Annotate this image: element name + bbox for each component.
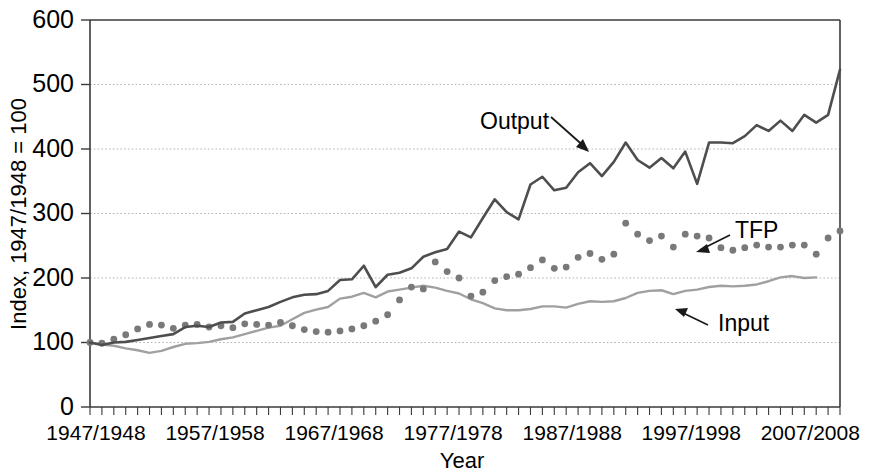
x-tick-label: 1987/1988	[523, 421, 622, 444]
x-tick-label: 1957/1958	[165, 421, 264, 444]
y-tick-label: 300	[32, 198, 74, 226]
series-marker-tfp	[313, 328, 320, 335]
series-marker-tfp	[229, 324, 236, 331]
y-tick-label: 100	[32, 327, 74, 355]
series-marker-tfp	[372, 318, 379, 325]
series-marker-tfp	[337, 327, 344, 334]
series-marker-tfp	[491, 277, 498, 284]
series-marker-tfp	[729, 247, 736, 254]
series-marker-tfp	[694, 233, 701, 240]
axis-frame	[90, 20, 840, 407]
y-tick-label: 400	[32, 134, 74, 162]
annotation-arrowhead-input	[675, 308, 688, 317]
annotation-label-tfp: TFP	[735, 217, 778, 243]
series-marker-tfp	[479, 289, 486, 296]
series-marker-tfp	[801, 242, 808, 249]
chart-canvas: 0100200300400500600 1947/19481957/195819…	[0, 0, 879, 475]
series-marker-tfp	[408, 284, 415, 291]
series-marker-tfp	[265, 322, 272, 329]
x-tick-label: 1947/1948	[46, 421, 145, 444]
x-axis-ticks	[90, 407, 840, 415]
series-marker-tfp	[277, 319, 284, 326]
series-marker-tfp	[384, 311, 391, 318]
series-marker-tfp	[622, 220, 629, 227]
series-marker-tfp	[253, 321, 260, 328]
chart-container: 0100200300400500600 1947/19481957/195819…	[0, 0, 879, 475]
series-marker-tfp	[515, 271, 522, 278]
series-line-input	[90, 276, 816, 353]
series-marker-tfp	[599, 256, 606, 263]
series-marker-tfp	[527, 264, 534, 271]
series-marker-tfp	[825, 235, 832, 242]
series-line-output	[90, 70, 840, 345]
series-marker-tfp	[718, 244, 725, 251]
y-tick-label: 600	[32, 5, 74, 33]
series-marker-tfp	[789, 242, 796, 249]
series-marker-tfp	[170, 325, 177, 332]
series-marker-tfp	[301, 326, 308, 333]
series-marker-tfp	[670, 244, 677, 251]
series-marker-tfp	[813, 251, 820, 258]
y-axis-ticks: 0100200300400500600	[32, 5, 90, 420]
series-marker-tfp	[658, 233, 665, 240]
series-marker-tfp	[706, 235, 713, 242]
series-marker-tfp	[349, 326, 356, 333]
annotation-label-input: Input	[718, 310, 770, 336]
series-marker-tfp	[563, 264, 570, 271]
series-marker-tfp	[539, 257, 546, 264]
series-marker-tfp	[777, 244, 784, 251]
annotation-input: Input	[675, 308, 770, 336]
series-marker-tfp	[146, 321, 153, 328]
y-tick-label: 500	[32, 69, 74, 97]
annotation-output: Output	[480, 108, 589, 152]
series-marker-tfp	[468, 293, 475, 300]
series-marker-tfp	[134, 326, 141, 333]
x-tick-label: 2007/2008	[761, 421, 860, 444]
series-marker-tfp	[241, 320, 248, 327]
series-marker-tfp	[634, 231, 641, 238]
series-marker-tfp	[360, 322, 367, 329]
series-marker-tfp	[444, 268, 451, 275]
gridlines	[90, 85, 840, 343]
series-marker-tfp	[646, 237, 653, 244]
series-marker-tfp	[420, 286, 427, 293]
y-tick-label: 0	[60, 392, 74, 420]
series-marker-tfp	[741, 244, 748, 251]
x-tick-label: 1997/1998	[642, 421, 741, 444]
series-marker-tfp	[122, 331, 129, 338]
series-marker-tfp	[837, 228, 844, 235]
series-marker-tfp	[456, 275, 463, 282]
series-marker-tfp	[289, 322, 296, 329]
series-marker-tfp	[325, 329, 332, 336]
series-marker-tfp	[551, 265, 558, 272]
series-marker-tfp	[503, 273, 510, 280]
series-marker-tfp	[610, 251, 617, 258]
y-tick-label: 200	[32, 263, 74, 291]
y-axis-title: Index, 1947/1948 = 100	[6, 98, 31, 330]
series-marker-tfp	[158, 322, 165, 329]
annotation-label-output: Output	[480, 108, 550, 134]
x-axis-title: Year	[440, 448, 484, 473]
x-axis-tick-labels: 1947/19481957/19581967/19681977/19781987…	[46, 421, 860, 444]
series-marker-tfp	[765, 244, 772, 251]
x-tick-label: 1977/1978	[404, 421, 503, 444]
series-marker-tfp	[587, 250, 594, 257]
series-marker-tfp	[575, 254, 582, 261]
series-marker-tfp	[682, 231, 689, 238]
x-tick-label: 1967/1968	[284, 421, 383, 444]
series-marker-tfp	[432, 258, 439, 265]
series-marker-tfp	[396, 297, 403, 304]
